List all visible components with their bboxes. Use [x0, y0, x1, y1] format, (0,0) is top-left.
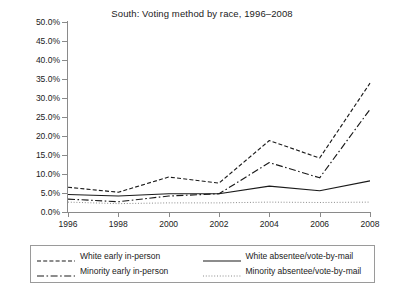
legend-item[interactable]: Minority absentee/vote-by-mail	[203, 264, 369, 279]
legend-item[interactable]: White absentee/vote-by-mail	[203, 249, 369, 264]
y-axis-tick	[62, 155, 67, 156]
x-axis-tick-label: 1998	[98, 220, 138, 229]
x-axis-tick-label: 2002	[199, 220, 239, 229]
y-axis-tick	[62, 212, 67, 213]
legend-label: White early in-person	[80, 252, 160, 261]
y-axis-tick	[62, 136, 67, 137]
x-axis-tick	[269, 212, 270, 217]
series-line-2	[68, 109, 370, 201]
y-axis-tick	[62, 22, 67, 23]
x-axis-tick	[68, 212, 69, 217]
legend-swatch-solid	[203, 252, 241, 262]
x-axis-tick	[118, 212, 119, 217]
chart-legend: White early in-personWhite absentee/vote…	[30, 245, 375, 283]
x-axis-tick-label: 2004	[249, 220, 289, 229]
legend-swatch-dotted	[203, 267, 241, 277]
x-axis-tick	[169, 212, 170, 217]
y-axis-tick	[62, 79, 67, 80]
legend-label: Minority early in-person	[80, 267, 168, 276]
x-axis-tick	[219, 212, 220, 217]
y-axis-tick	[62, 174, 67, 175]
x-axis-tick-label: 2006	[300, 220, 340, 229]
y-axis-tick	[62, 193, 67, 194]
y-axis-tick	[62, 41, 67, 42]
legend-swatch-dash-dot	[37, 267, 75, 277]
x-axis-tick-label: 1996	[48, 220, 88, 229]
legend-item[interactable]: White early in-person	[37, 249, 203, 264]
series-line-3	[68, 202, 370, 204]
series-line-0	[68, 83, 370, 192]
x-axis-tick	[370, 212, 371, 217]
legend-label: White absentee/vote-by-mail	[246, 252, 354, 261]
x-axis-tick-label: 2000	[149, 220, 189, 229]
legend-swatch-dashed	[37, 252, 75, 262]
x-axis-tick	[320, 212, 321, 217]
legend-label: Minority absentee/vote-by-mail	[246, 267, 362, 276]
x-axis-tick-label: 2008	[350, 220, 390, 229]
legend-item[interactable]: Minority early in-person	[37, 264, 203, 279]
chart-figure: South: Voting method by race, 1996–2008 …	[0, 0, 404, 292]
y-axis-tick	[62, 60, 67, 61]
y-axis-tick	[62, 117, 67, 118]
y-axis-tick	[62, 98, 67, 99]
